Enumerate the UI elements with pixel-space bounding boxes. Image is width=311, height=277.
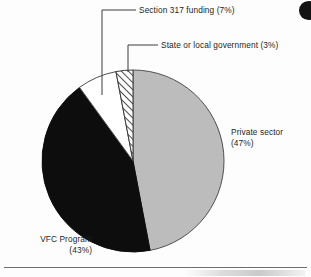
pie-chart-figure: Section 317 funding (7%) State or local … [0, 0, 311, 277]
slice-label-state-or-local-government: State or local government (3%) [161, 40, 278, 50]
pie-slice-private-sector [133, 70, 224, 250]
slice-label-section-317-funding: Section 317 funding (7%) [139, 5, 235, 15]
slice-label-vfc-program-name: VFC Program [40, 234, 92, 244]
slice-label-private-sector-name: Private sector [231, 127, 283, 137]
bottom-divider-rule [4, 267, 307, 268]
corner-mark-artifact [299, 1, 311, 20]
slice-label-vfc-program: VFC Program (43%) [14, 234, 92, 255]
leader-line-state-or-local-government [128, 45, 158, 72]
slice-label-private-sector-percent: (47%) [231, 138, 283, 149]
slice-label-vfc-program-percent: (43%) [14, 245, 92, 256]
scan-artifact-smudge [185, 270, 305, 276]
slice-label-private-sector: Private sector (47%) [231, 127, 283, 148]
